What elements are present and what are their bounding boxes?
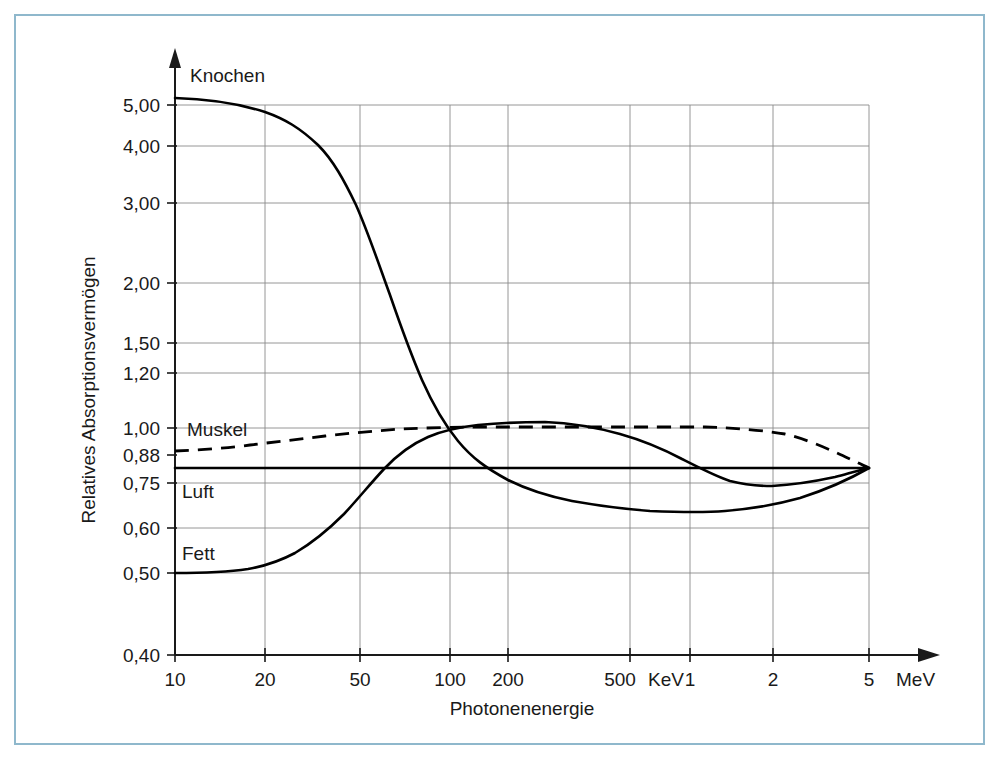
y-tick-label: 0,40 [123, 645, 160, 666]
y-tick-label: 0,75 [123, 473, 160, 494]
y-axis-arrow [169, 48, 181, 68]
y-tick-label: 1,00 [123, 418, 160, 439]
y-tick-label: 0,88 [123, 445, 160, 466]
y-tick-labels: 5,00 4,00 3,00 2,00 1,50 1,20 1,00 0,88 … [123, 95, 160, 666]
curve-muskel [175, 427, 869, 468]
curve-knochen [175, 98, 869, 512]
curve-label-knochen: Knochen [190, 65, 265, 86]
horizontal-gridlines [175, 105, 869, 655]
y-tick-label: 5,00 [123, 95, 160, 116]
x-axis-arrow [918, 648, 940, 662]
x-tick-label: 2 [768, 669, 779, 690]
absorption-chart: 5,00 4,00 3,00 2,00 1,50 1,20 1,00 0,88 … [0, 0, 1003, 767]
chart-page: 5,00 4,00 3,00 2,00 1,50 1,20 1,00 0,88 … [0, 0, 1003, 767]
y-tick-label: 2,00 [123, 273, 160, 294]
x-axis [175, 648, 940, 662]
x-tick-label: 5 [864, 669, 875, 690]
x-axis-title: Photonenenergie [450, 698, 595, 719]
curve-label-muskel: Muskel [187, 419, 247, 440]
x-tick-label: 10 [164, 669, 185, 690]
x-tick-label: 50 [349, 669, 370, 690]
y-tick-label: 3,00 [123, 193, 160, 214]
x-unit-kev-label: KeV [648, 669, 684, 690]
x-tick-labels: 10 20 50 100 200 500 KeV 1 2 5 MeV [164, 669, 935, 690]
y-tick-label: 0,60 [123, 518, 160, 539]
vertical-gridlines [175, 105, 869, 655]
x-unit-mev-label: MeV [896, 669, 935, 690]
y-axis [169, 48, 181, 655]
y-tick-label: 1,50 [123, 333, 160, 354]
x-tick-label: 1 [685, 669, 696, 690]
x-tick-label: 20 [254, 669, 275, 690]
y-tick-label: 1,20 [123, 363, 160, 384]
curve-label-luft: Luft [182, 481, 214, 502]
x-tick-label: 200 [492, 669, 524, 690]
x-tick-label: 500 [604, 669, 636, 690]
curve-fett [175, 422, 869, 573]
y-tick-label: 4,00 [123, 136, 160, 157]
curve-label-fett: Fett [182, 543, 215, 564]
y-tick-label: 0,50 [123, 563, 160, 584]
y-axis-title: Relatives Absorptionsvermögen [78, 256, 99, 523]
x-tick-label: 100 [434, 669, 466, 690]
